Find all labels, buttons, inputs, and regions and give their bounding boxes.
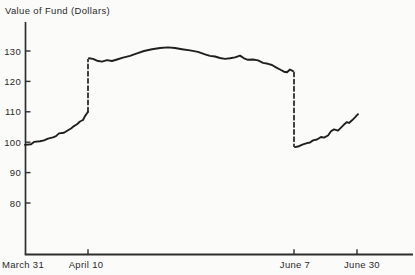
x-tick-label: June 30 [344, 259, 380, 270]
x-axis-ticks: March 31April 10June 7June 30 [2, 249, 380, 269]
fund-value-post-drop-path [295, 114, 358, 147]
chart-title: Value of Fund (Dollars) [5, 5, 110, 16]
x-tick-label: June 7 [280, 259, 310, 270]
fund-value-line-chart: 1301201101009080 March 31April 10June 7J… [0, 0, 415, 275]
x-tick-label: March 31 [2, 259, 44, 270]
chart-canvas: 1301201101009080 March 31April 10June 7J… [0, 0, 415, 275]
fund-value-pre-jump-path [25, 112, 88, 145]
y-tick-label: 130 [4, 46, 21, 57]
y-tick-label: 110 [5, 106, 21, 117]
y-tick-label: 120 [4, 76, 21, 87]
y-tick-label: 100 [4, 137, 21, 148]
y-tick-label: 90 [10, 167, 21, 178]
x-tick-label: April 10 [69, 259, 104, 270]
fund-value-mid-path [89, 47, 293, 72]
fund-value-series [25, 47, 358, 147]
y-axis-ticks: 1301201101009080 [4, 46, 30, 209]
y-tick-label: 80 [10, 198, 21, 209]
